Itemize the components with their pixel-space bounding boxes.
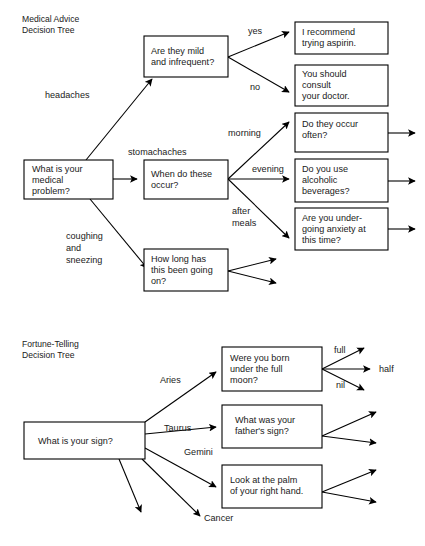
node-anxiety-line-2: going anxiety at bbox=[302, 224, 366, 234]
node-medical-problem-line-3: problem? bbox=[32, 186, 70, 196]
node-alcoholic-beverages[interactable]: Do you use alcoholic beverages? bbox=[295, 159, 388, 202]
node-how-long-line-2: this been going bbox=[151, 265, 213, 275]
edge-sign-cancer bbox=[142, 459, 200, 516]
node-consult-doctor[interactable]: You should consult your doctor. bbox=[295, 65, 388, 106]
edge-label-taurus: Taurus bbox=[164, 423, 192, 433]
node-medical-problem-line-1: What is your bbox=[32, 164, 83, 174]
edge-label-sneezing: sneezing bbox=[66, 255, 102, 265]
edge-label-yes: yes bbox=[248, 26, 263, 36]
node-alcoholic-line-3: beverages? bbox=[302, 186, 350, 196]
edge-stub-how-long-b bbox=[228, 271, 276, 283]
node-when-occur-line-1: When do these bbox=[151, 169, 212, 179]
node-sign-line-1: What is your sign? bbox=[38, 436, 113, 446]
decision-tree-figure: Medical Advice Decision Tree What is you… bbox=[0, 0, 425, 546]
edge-father-a bbox=[322, 412, 376, 436]
edge-label-aries: Aries bbox=[160, 375, 181, 385]
edge-stub-how-long-a bbox=[228, 259, 276, 271]
node-mild-and-infrequent[interactable]: Are they mild and infrequent? bbox=[144, 36, 228, 77]
node-moon-line-3: moon? bbox=[230, 375, 258, 385]
edge-sign-unlabeled bbox=[119, 459, 141, 512]
node-fathers-sign[interactable]: What was your father's sign? bbox=[222, 405, 322, 448]
node-medical-problem[interactable]: What is your medical problem? bbox=[24, 160, 113, 199]
node-palm-line-2: of your right hand. bbox=[230, 486, 303, 496]
node-do-they-occur-often[interactable]: Do they occur often? bbox=[295, 113, 388, 152]
node-mild-line-2: and infrequent? bbox=[151, 57, 214, 67]
node-father-line-2: father's sign? bbox=[235, 426, 289, 436]
medical-tree-title: Medical Advice Decision Tree bbox=[22, 14, 80, 35]
edge-father-b bbox=[322, 436, 376, 443]
node-moon-line-2: under the full bbox=[230, 364, 283, 374]
node-consult-line-2: consult bbox=[302, 80, 331, 90]
fortune-title-line-2: Decision Tree bbox=[22, 350, 75, 360]
node-alcoholic-line-2: alcoholic bbox=[302, 175, 338, 185]
node-recommend-aspirin[interactable]: I recommend trying aspirin. bbox=[295, 22, 388, 54]
edge-label-full: full bbox=[334, 345, 346, 355]
node-occur-often-line-1: Do they occur bbox=[302, 119, 358, 129]
edge-label-evening: evening bbox=[252, 164, 284, 174]
node-moon-line-1: Were you born bbox=[230, 353, 289, 363]
node-consult-line-3: your doctor. bbox=[302, 91, 350, 101]
node-mild-line-1: Are they mild bbox=[151, 46, 204, 56]
fortune-tree-title: Fortune-Telling Decision Tree bbox=[22, 339, 79, 360]
node-anxiety-line-1: Are you under- bbox=[302, 213, 362, 223]
node-occur-often-line-2: often? bbox=[302, 130, 327, 140]
edge-label-headaches: headaches bbox=[45, 90, 90, 100]
edge-palm-a bbox=[322, 470, 376, 492]
edge-label-no: no bbox=[250, 82, 260, 92]
node-how-long-line-1: How long has bbox=[151, 254, 207, 264]
edge-label-cancer: Cancer bbox=[204, 513, 233, 523]
edge-palm-b bbox=[322, 492, 376, 502]
node-what-is-your-sign[interactable]: What is your sign? bbox=[24, 422, 145, 459]
edge-label-gemini: Gemini bbox=[184, 447, 213, 457]
node-palm-line-1: Look at the palm bbox=[230, 475, 297, 485]
node-how-long-going-on[interactable]: How long has this been going on? bbox=[144, 249, 228, 291]
fortune-telling-decision-tree: Fortune-Telling Decision Tree What is yo… bbox=[22, 339, 394, 523]
edge-label-coughing: coughing bbox=[66, 231, 103, 241]
edge-label-after: after bbox=[232, 206, 250, 216]
node-aspirin-line-2: trying aspirin. bbox=[302, 38, 356, 48]
medical-advice-decision-tree: Medical Advice Decision Tree What is you… bbox=[22, 14, 415, 291]
medical-title-line-2: Decision Tree bbox=[22, 25, 75, 35]
node-when-occur-line-2: occur? bbox=[151, 180, 178, 190]
edge-label-stomachaches: stomachaches bbox=[128, 147, 187, 157]
edge-label-half: half bbox=[379, 364, 394, 374]
node-born-under-full-moon[interactable]: Were you born under the full moon? bbox=[222, 347, 322, 391]
edge-label-and: and bbox=[66, 243, 81, 253]
node-look-at-palm[interactable]: Look at the palm of your right hand. bbox=[222, 465, 322, 508]
medical-title-line-1: Medical Advice bbox=[22, 14, 80, 24]
node-consult-line-1: You should bbox=[302, 69, 347, 79]
node-anxiety-line-3: this time? bbox=[302, 235, 341, 245]
node-aspirin-line-1: I recommend bbox=[302, 27, 355, 37]
node-medical-problem-line-2: medical bbox=[32, 175, 63, 185]
edge-label-nil: nil bbox=[336, 380, 345, 390]
node-undergoing-anxiety[interactable]: Are you under- going anxiety at this tim… bbox=[295, 208, 388, 250]
node-alcoholic-line-1: Do you use bbox=[302, 164, 348, 174]
edge-label-morning: morning bbox=[228, 128, 261, 138]
edge-label-meals: meals bbox=[232, 218, 257, 228]
node-how-long-line-3: on? bbox=[151, 276, 166, 286]
fortune-title-line-1: Fortune-Telling bbox=[22, 339, 79, 349]
node-when-do-these-occur[interactable]: When do these occur? bbox=[144, 160, 228, 199]
node-father-line-1: What was your bbox=[235, 415, 295, 425]
